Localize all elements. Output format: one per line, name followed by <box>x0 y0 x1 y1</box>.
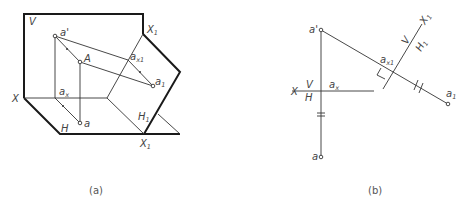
label-x1: X1 <box>417 11 434 28</box>
label-a-prime: a' <box>60 27 69 38</box>
label-ax1: ax1 <box>130 51 144 64</box>
label-a: a <box>84 118 90 129</box>
label-a-prime: a' <box>309 24 318 35</box>
label-ax: ax <box>59 86 69 99</box>
tick-mark <box>62 105 64 107</box>
h1-plane-edge <box>158 114 180 134</box>
figure-a: V X H a' A a ax ax1 a1 X1 X1 H1 (a) <box>11 14 180 196</box>
h-plane-border <box>24 98 180 134</box>
figure-b: X V H ax a' a ax1 a1 V H1 X1 (b) <box>290 11 456 196</box>
tick-mark <box>139 71 141 73</box>
right-angle-mark <box>377 68 385 79</box>
label-h: H <box>305 92 313 103</box>
label-ax1: ax1 <box>380 54 394 67</box>
label-x: X <box>290 86 299 97</box>
label-h1: H1 <box>138 111 150 124</box>
label-x: X <box>11 93 20 104</box>
proj-a-prime-a1 <box>321 30 448 104</box>
label-a: a <box>312 151 318 162</box>
label-x1-top: X1 <box>146 24 158 37</box>
proj-ax-a <box>55 98 80 123</box>
equal-tick <box>419 83 423 93</box>
label-v: V <box>29 16 37 27</box>
caption-b: (b) <box>368 185 382 196</box>
caption-a: (a) <box>89 185 103 196</box>
point-A <box>78 60 82 64</box>
label-x1-bottom: X1 <box>139 138 151 151</box>
label-v-aux: V <box>399 34 413 46</box>
point-a <box>78 121 82 125</box>
point-a <box>319 155 323 159</box>
label-h1: H1 <box>413 37 430 54</box>
point-a-prime <box>53 34 57 38</box>
x1-axis <box>383 24 422 89</box>
label-ax: ax <box>329 79 339 92</box>
tick-mark <box>66 48 68 50</box>
label-v: V <box>306 79 314 90</box>
v1-plane-edge <box>107 34 143 98</box>
projection-diagram: V X H a' A a ax ax1 a1 X1 X1 H1 (a) <box>0 0 459 201</box>
label-a1: a1 <box>155 76 165 89</box>
label-a1: a1 <box>446 88 456 101</box>
label-h: H <box>61 123 69 134</box>
label-A: A <box>83 53 91 64</box>
point-a-prime <box>319 28 323 32</box>
point-a1 <box>446 102 450 106</box>
